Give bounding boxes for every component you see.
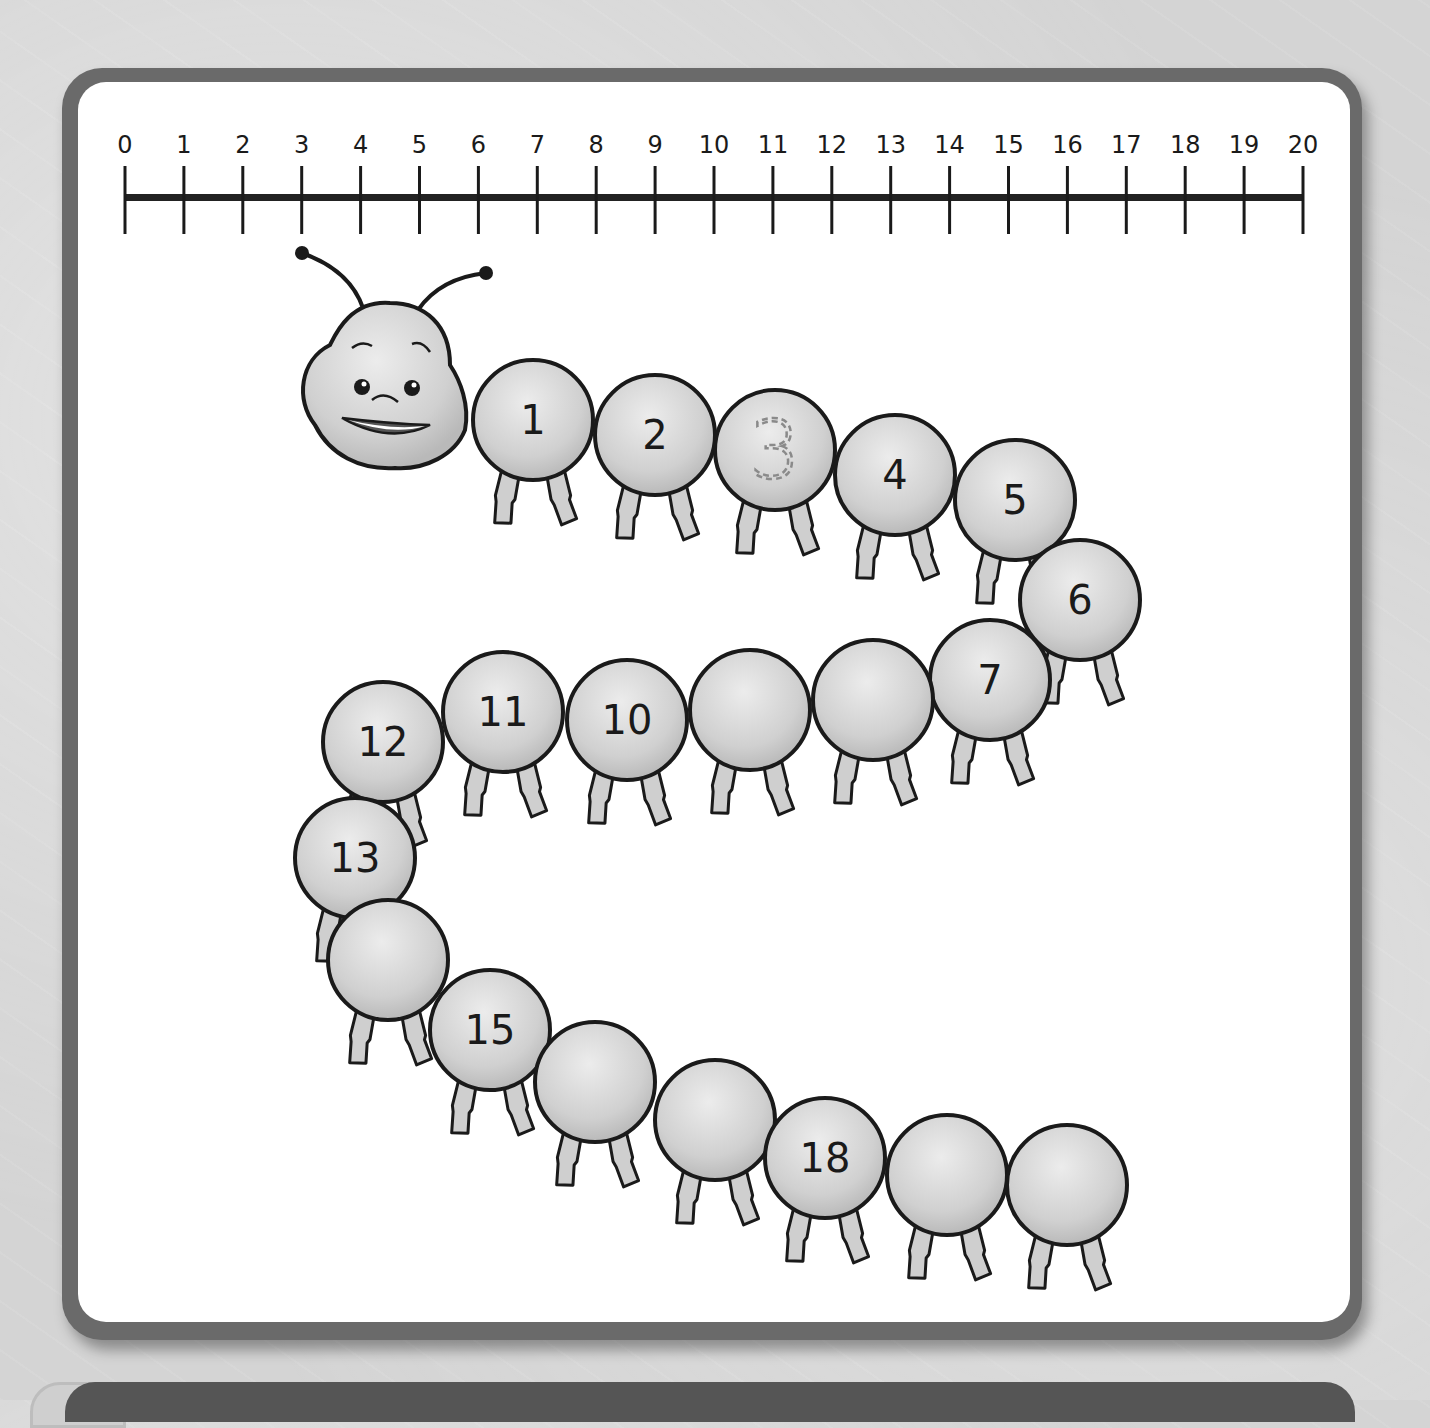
tick-label: 1: [176, 131, 191, 159]
tick-label: 12: [817, 131, 848, 159]
segment-number: 18: [800, 1135, 851, 1181]
segment-number: 3: [750, 404, 801, 497]
tick-label: 6: [471, 131, 486, 159]
tick-label: 19: [1229, 131, 1260, 159]
body-segment-5: 5: [955, 440, 1075, 560]
number-line-ticks: [125, 166, 1303, 234]
body-segment-16: [535, 1022, 655, 1142]
antenna-right-tip: [479, 266, 493, 280]
tick-label: 15: [993, 131, 1024, 159]
tick-label: 16: [1052, 131, 1083, 159]
body-segment-9: [690, 650, 810, 770]
tick-label: 14: [934, 131, 965, 159]
tick-label: 5: [412, 131, 427, 159]
number-line: 01234567891011121314151617181920: [117, 131, 1318, 234]
body-segment-12: 12: [323, 682, 443, 802]
tick-label: 4: [353, 131, 368, 159]
body-segment-10: 10: [567, 660, 687, 780]
body-segment-19: [887, 1115, 1007, 1235]
segment-number: 12: [358, 719, 409, 765]
tick-label: 0: [117, 131, 132, 159]
segment-number: 7: [977, 657, 1002, 703]
segment-number: 15: [465, 1007, 516, 1053]
body-segment-3: 3: [715, 390, 835, 510]
head-shape: [303, 303, 466, 468]
segment-number: 1: [520, 397, 545, 443]
body-segment-1: 1: [473, 360, 593, 480]
tick-label: 2: [235, 131, 250, 159]
segment-number: 6: [1067, 577, 1092, 623]
body-segment-11: 11: [443, 652, 563, 772]
body-segment-8: [813, 640, 933, 760]
tick-label: 11: [758, 131, 789, 159]
number-line-labels: 01234567891011121314151617181920: [117, 131, 1318, 159]
antenna-right: [418, 273, 486, 310]
body-segment-4: 4: [835, 415, 955, 535]
body-segment-7: 7: [930, 620, 1050, 740]
caterpillar: 1234567101112131518: [295, 246, 1140, 1291]
caterpillar-head: [295, 246, 493, 468]
segment-number: 10: [602, 697, 653, 743]
segment-number: 5: [1002, 477, 1027, 523]
body-segment-17: [655, 1060, 775, 1180]
body-segment-18: 18: [765, 1098, 885, 1218]
segment-number: 13: [330, 835, 381, 881]
tick-label: 3: [294, 131, 309, 159]
tick-label: 18: [1170, 131, 1201, 159]
body-segment-14: [328, 900, 448, 1020]
tick-label: 9: [647, 131, 662, 159]
segment-number: 11: [478, 689, 529, 735]
antenna-left: [302, 253, 363, 308]
body-segment-20: [1007, 1125, 1127, 1245]
eye-right: [404, 380, 420, 396]
tick-label: 13: [875, 131, 906, 159]
tick-label: 20: [1288, 131, 1319, 159]
tick-label: 8: [589, 131, 604, 159]
segment-number: 4: [882, 452, 907, 498]
body-segment-2: 2: [595, 375, 715, 495]
eye-left: [354, 379, 370, 395]
tick-label: 17: [1111, 131, 1142, 159]
antenna-left-tip: [295, 246, 309, 260]
tick-label: 10: [699, 131, 730, 159]
segment-number: 2: [642, 412, 667, 458]
tick-label: 7: [530, 131, 545, 159]
body-segment-15: 15: [430, 970, 550, 1090]
